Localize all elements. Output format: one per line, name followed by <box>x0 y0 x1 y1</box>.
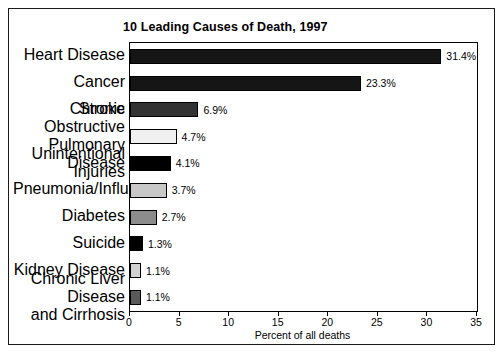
x-tick-label: 10 <box>222 316 234 328</box>
bar <box>130 183 167 198</box>
category-label-line: Suicide <box>13 234 125 252</box>
x-tick-label: 30 <box>421 316 433 328</box>
x-tick-label: 15 <box>272 316 284 328</box>
y-axis-category-labels: Heart DiseaseCancerStrokeChronic Obstruc… <box>11 42 125 310</box>
bar-value-label: 2.7% <box>162 212 186 223</box>
x-tick-label: 35 <box>470 316 482 328</box>
bar-row: 1.1% <box>130 284 477 311</box>
bar-row: 1.1% <box>130 257 477 284</box>
bar-row: 23.3% <box>130 70 477 97</box>
bar <box>130 236 143 251</box>
category-label: Heart Disease <box>13 42 125 69</box>
bar-value-label: 4.1% <box>176 158 200 169</box>
bar-value-label: 4.7% <box>182 132 206 143</box>
bar <box>130 49 441 64</box>
plot-frame: 31.4%23.3%6.9%4.7%4.1%3.7%2.7%1.3%1.1%1.… <box>129 42 478 312</box>
bar-value-label: 6.9% <box>203 105 227 116</box>
bar <box>130 156 171 171</box>
bar-row: 2.7% <box>130 204 477 231</box>
bar-value-label: 31.4% <box>446 51 476 62</box>
bar-value-label: 1.1% <box>146 266 170 277</box>
category-label-line: and Cirrhosis <box>13 306 125 324</box>
bar-value-label: 1.3% <box>148 239 172 250</box>
x-tick-label: 5 <box>176 316 182 328</box>
category-label-line: Chronic Liver Disease <box>13 270 125 306</box>
bar <box>130 76 361 91</box>
category-label: Cancer <box>13 69 125 96</box>
x-axis-title: Percent of all deaths <box>129 329 476 341</box>
category-label-line: Heart Disease <box>13 46 125 64</box>
bar-row: 31.4% <box>130 43 477 70</box>
bar-value-label: 23.3% <box>366 78 396 89</box>
bar <box>130 210 157 225</box>
x-tick-label: 20 <box>321 316 333 328</box>
category-label-line: Chronic Obstructive <box>13 100 125 136</box>
category-label: Pneumonia/Influenza <box>13 176 125 203</box>
bar-value-label: 3.7% <box>172 185 196 196</box>
bar <box>130 290 141 305</box>
chart-figure: 10 Leading Causes of Death, 1997 Heart D… <box>8 8 495 345</box>
bar-value-label: 1.1% <box>146 292 170 303</box>
bar <box>130 263 141 278</box>
x-tick-label: 25 <box>371 316 383 328</box>
category-label-line: Pneumonia/Influenza <box>13 180 125 198</box>
category-label-line: Cancer <box>13 73 125 91</box>
category-label-line: Diabetes <box>13 207 125 225</box>
x-tick-label: 0 <box>126 316 132 328</box>
plot-area: 31.4%23.3%6.9%4.7%4.1%3.7%2.7%1.3%1.1%1.… <box>130 43 477 311</box>
category-label: Suicide <box>13 230 125 257</box>
bar-row: 1.3% <box>130 231 477 258</box>
bar-row: 3.7% <box>130 177 477 204</box>
category-label: Diabetes <box>13 203 125 230</box>
bar <box>130 102 198 117</box>
bar <box>130 129 177 144</box>
bar-row: 4.7% <box>130 123 477 150</box>
category-label: Chronic Liver Diseaseand Cirrhosis <box>13 283 125 310</box>
chart-title: 10 Leading Causes of Death, 1997 <box>123 20 328 34</box>
bar-row: 6.9% <box>130 97 477 124</box>
bar-row: 4.1% <box>130 150 477 177</box>
category-label: Unintentional Injuries <box>13 149 125 176</box>
